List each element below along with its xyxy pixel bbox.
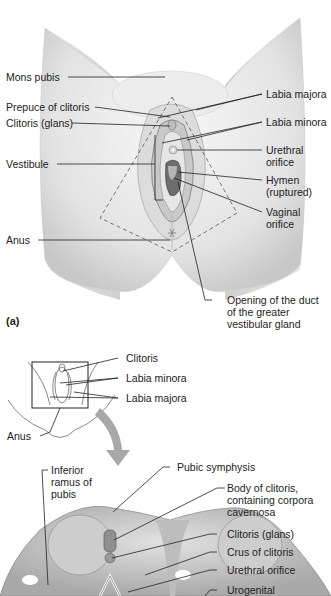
inset-label-anus: Anus xyxy=(7,430,31,443)
label-pubic-symphysis: Pubic symphysis xyxy=(177,461,255,474)
label-body-of-clitoris-line3: cavernosa xyxy=(227,506,275,519)
inset-diagram xyxy=(8,362,115,438)
label-clitoris-glans-b: Clitoris (glans) xyxy=(227,528,294,541)
panel-a-tag: (a) xyxy=(6,315,19,327)
label-inferior-ramus-line1: Inferior xyxy=(51,464,84,477)
label-labia-majora: Labia majora xyxy=(266,88,327,101)
label-vaginal-orifice-line1: Vaginal xyxy=(266,206,300,219)
label-urethral-orifice-b: Urethral orifice xyxy=(227,564,295,577)
label-urethral-orifice-line1: Urethral xyxy=(266,144,303,157)
label-anus: Anus xyxy=(6,234,30,247)
label-hymen-line1: Hymen xyxy=(266,174,299,187)
label-duct-line2: of the greater xyxy=(227,306,289,319)
label-mons-pubis: Mons pubis xyxy=(6,71,60,84)
inset-label-clitoris: Clitoris xyxy=(126,352,158,365)
label-body-of-clitoris-line2: containing corpora xyxy=(227,494,313,507)
label-prepuce-of-clitoris: Prepuce of clitoris xyxy=(6,101,89,114)
label-urethral-orifice-line2: orifice xyxy=(266,156,294,169)
arrow-icon xyxy=(95,408,130,466)
label-body-of-clitoris-line1: Body of clitoris, xyxy=(227,482,298,495)
inset-label-labia-majora: Labia majora xyxy=(126,392,187,405)
label-inferior-ramus-line2: ramus of xyxy=(51,476,92,489)
label-duct-line1: Opening of the duct xyxy=(227,294,319,307)
label-inferior-ramus-line3: pubis xyxy=(51,488,76,501)
label-crus-of-clitoris: Crus of clitoris xyxy=(227,546,294,559)
label-duct-line3: vestibular gland xyxy=(227,318,301,331)
label-clitoris-glans: Clitoris (glans) xyxy=(6,117,73,130)
inset-label-labia-minora: Labia minora xyxy=(126,372,187,385)
label-labia-minora: Labia minora xyxy=(266,116,327,129)
label-vaginal-orifice-line2: orifice xyxy=(266,218,294,231)
label-urogenital: Urogenital xyxy=(227,584,275,596)
label-vestibule: Vestibule xyxy=(6,158,49,171)
label-hymen-line2: (ruptured) xyxy=(266,186,312,199)
